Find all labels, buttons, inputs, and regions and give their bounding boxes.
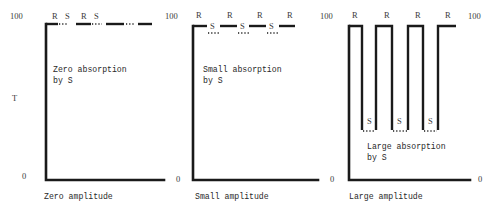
panel2-label-r: R — [196, 10, 202, 20]
panel3-y-max-label: 100 — [320, 11, 333, 21]
panel1-y-max-label: 100 — [10, 11, 23, 21]
panel2-y-min-label: 0 — [176, 174, 180, 184]
panel3-trace-r — [349, 26, 362, 130]
panel1-label-r: R — [81, 11, 87, 21]
panel3-label-r: R — [445, 10, 451, 20]
panel3-trace-r — [376, 26, 392, 130]
panel3-amplitude-caption: Large amplitude — [349, 192, 423, 201]
panel2-label-r: R — [287, 10, 293, 20]
panel2-label-s: S — [269, 21, 274, 31]
panel3-label-s: S — [428, 116, 433, 126]
panel2-label-s: S — [210, 21, 215, 31]
panel2-label-s: S — [240, 21, 245, 31]
panel1-axes — [46, 24, 164, 180]
panel-zero-amplitude: 100 0 R S R S Zero absorption by S Zero … — [10, 11, 164, 201]
panel1-absorption-caption: Zero absorption — [53, 65, 127, 74]
panel1-amplitude-caption: Zero amplitude — [44, 192, 113, 201]
panel3-absorption-caption: Large absorption — [367, 142, 446, 151]
panel2-y-max-label: 100 — [165, 11, 178, 21]
panel2-absorption-caption-line2: by S — [203, 76, 223, 85]
panel1-y-min-label: 0 — [22, 171, 26, 181]
panel3-label-s: S — [397, 116, 402, 126]
panel1-label-s: S — [65, 11, 70, 21]
panel3-trace-r — [438, 26, 456, 130]
panel3-trace-r — [408, 26, 423, 130]
panel3-absorption-caption-line2: by S — [367, 153, 387, 162]
y-axis-label: T — [12, 93, 18, 103]
panel1-absorption-caption-line2: by S — [53, 76, 73, 85]
panel1-label-s: S — [94, 11, 99, 21]
panel2-label-r: R — [257, 10, 263, 20]
panel2-absorption-caption: Small absorption — [203, 65, 282, 74]
panel3-label-s: S — [367, 116, 372, 126]
panel-large-amplitude: 100 0 100 0 R R R R S S S Large absorpti… — [320, 10, 482, 201]
panel2-label-r: R — [227, 10, 233, 20]
panel3-y-max-label-right: 100 — [468, 11, 481, 21]
absorption-amplitude-diagram: T 100 0 R S R S Zero absorption by S Zer… — [0, 0, 498, 208]
panel3-y-min-label: 0 — [330, 174, 334, 184]
panel3-label-r: R — [384, 10, 390, 20]
panel2-amplitude-caption: Small amplitude — [195, 192, 269, 201]
panel3-y-min-label-right: 0 — [478, 174, 482, 184]
panel3-label-r: R — [415, 10, 421, 20]
panel1-label-r: R — [52, 11, 58, 21]
panel-small-amplitude: 100 0 R R R R S S S Small absorption by … — [165, 10, 318, 201]
panel2-axes — [193, 26, 318, 180]
panel3-label-r: R — [352, 10, 358, 20]
